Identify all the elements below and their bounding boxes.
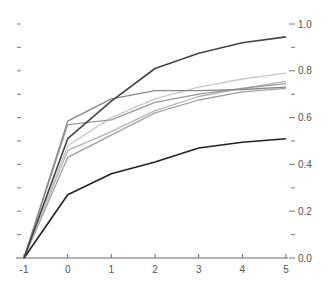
y-tick-label: 0.4 <box>298 159 312 170</box>
line-chart: 0.00.20.40.60.81.0 -1012345 <box>0 0 329 286</box>
line-series-6 <box>24 81 286 258</box>
line-series-7 <box>24 88 286 258</box>
y-tick-label: 0.6 <box>298 112 312 123</box>
y-tick-label: 0.0 <box>298 253 312 264</box>
right-y-axis: 0.00.20.40.60.81.0 <box>289 19 312 264</box>
x-tick-label: -1 <box>20 264 29 275</box>
x-tick-label: 1 <box>109 264 115 275</box>
x-axis: -1012345 <box>16 254 289 275</box>
left-axis-ticks <box>17 24 21 235</box>
x-tick-label: 2 <box>152 264 158 275</box>
series-lines <box>24 37 286 258</box>
y-tick-label: 0.8 <box>298 65 312 76</box>
x-tick-label: 4 <box>240 264 246 275</box>
y-tick-label: 0.2 <box>298 206 312 217</box>
line-series-5 <box>24 73 286 258</box>
x-tick-label: 5 <box>283 264 289 275</box>
line-series-1 <box>24 37 286 258</box>
x-tick-label: 3 <box>196 264 202 275</box>
x-tick-label: 0 <box>65 264 71 275</box>
line-series-4 <box>24 84 286 258</box>
y-tick-label: 1.0 <box>298 19 312 30</box>
